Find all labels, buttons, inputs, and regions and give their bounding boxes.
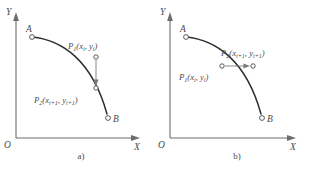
panel-a-p2-label-mid: , y	[58, 95, 66, 105]
panel-b-y-axis	[167, 12, 173, 138]
panel-b-p2-label-argsub2: i+1	[253, 53, 262, 59]
panel-a-caption: a)	[66, 151, 96, 161]
panel-b-x-axis-label: X	[289, 142, 297, 150]
panel-b-point-b-marker	[260, 116, 265, 121]
panel-a-p1-label-end: )	[94, 41, 98, 51]
panel-a-p2-label: P2(xi+1, yi+1)	[33, 95, 78, 106]
panel-b-point-p2-marker	[251, 64, 255, 68]
panel-a-p1-label-mid: , y	[85, 41, 93, 51]
panel-b-p1-label: P1(xi, yi)	[178, 72, 209, 83]
panel-a-point-a-marker	[30, 35, 35, 40]
figure-container: Y X O A B P1(xi, yi) P2(xi+1, yi+1)	[0, 0, 311, 174]
panel-b-p2-label-end: )	[261, 48, 265, 58]
panel-b-point-p1-marker	[220, 64, 224, 68]
panel-a-point-p1-marker	[94, 55, 98, 59]
panel-a-p2-label-argsub2: i+1	[66, 100, 75, 106]
panel-b-origin-label: O	[158, 140, 165, 150]
panel-b-point-a-label: A	[179, 24, 186, 34]
panel-b-p2-label: P2(xi+1, yi+1)	[220, 48, 265, 59]
panel-b-caption: b)	[222, 151, 252, 161]
panel-b-p2-label-mid: , y	[245, 48, 253, 58]
panel-b-point-a-marker	[184, 35, 189, 40]
panel-b-x-axis	[170, 135, 296, 141]
panel-a-x-axis	[16, 135, 140, 141]
panel-a-origin-label: O	[4, 140, 11, 150]
panel-a-x-axis-label: X	[133, 142, 141, 150]
panel-a-y-axis	[13, 12, 19, 138]
panel-a-point-p2-marker	[94, 86, 98, 90]
panel-b-p2-label-argsub: i+1	[236, 53, 245, 59]
panel-a-point-b-label: B	[113, 114, 119, 124]
panel-a-p2-label-end: )	[74, 95, 78, 105]
panel-b-p1-label-mid: , y	[196, 72, 204, 82]
panel-a-p1-label: P1(xi, yi)	[67, 41, 98, 52]
panel-b-p1-label-end: )	[205, 72, 209, 82]
panel-a-p2-label-argsub: i+1	[49, 100, 58, 106]
panel-a-point-a-label: A	[25, 24, 32, 34]
panel-b-point-b-label: B	[267, 114, 273, 124]
panel-a-y-axis-label: Y	[6, 7, 13, 17]
panel-a-diagram: Y X O A B P1(xi, yi) P2(xi+1, yi+1)	[0, 0, 155, 150]
panel-b-diagram: Y X O A B P1(xi, yi) P2(xi+1, yi+1)	[155, 0, 311, 150]
panel-b-y-axis-label: Y	[160, 7, 167, 17]
panel-a-point-b-marker	[106, 116, 111, 121]
